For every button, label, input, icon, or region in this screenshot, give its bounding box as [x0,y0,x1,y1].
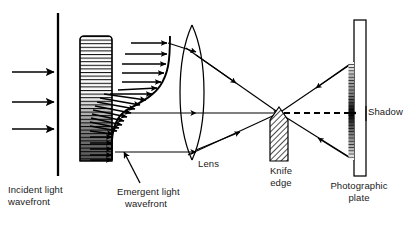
biconvex-lens [180,25,204,160]
photographic-plate-label: Photographic plate [316,180,402,203]
shadow-gradient-band [349,62,355,160]
ray-focus-upper-arrow [316,64,350,88]
knife-label-line1: Knife [262,165,300,177]
lens-label: Lens [198,158,219,170]
ray-lower-to-focus [188,113,279,155]
photographic-plate [354,20,366,176]
plate-label-line2: plate [316,192,402,204]
plate-body [354,20,366,176]
ray-upper-mark [196,55,236,83]
emergent-wavefront-label: Emergent light wavefront [117,186,180,209]
lens-right-face [192,25,204,160]
emergent-label-line2: wavefront [117,198,180,210]
diverging-rays [279,62,354,160]
knife-edge-label: Knife edge [262,165,300,188]
incident-ray-arrows [12,72,54,129]
incident-label-line2: wavefront [8,196,63,208]
incident-label-line1: Incident light [8,184,63,196]
plate-label-line1: Photographic [316,180,402,192]
figure-root: Incident light wavefront Emergent light … [0,0,416,225]
incident-wavefront-label: Incident light wavefront [8,184,63,207]
lens-left-face [180,25,192,160]
shadow-band-texture [349,62,355,160]
ray-lower-mark [196,132,240,150]
ray-upper-entry [168,43,196,52]
knife-edge-shape [270,107,288,161]
emergent-label-line1: Emergent light [117,186,180,198]
ray-focus-lower-arrow [318,138,350,158]
knife-edge-block [270,107,288,161]
knife-label-line2: edge [262,177,300,189]
emergent-label-leader [124,152,140,183]
shadow-label: Shadow [368,106,403,118]
